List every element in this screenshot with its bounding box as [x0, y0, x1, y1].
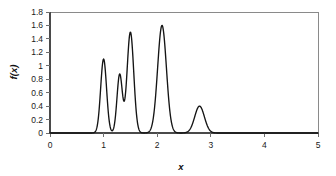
y-tick-label: 0.2: [31, 115, 43, 125]
chart-svg: 1.8 1.6 1.4 1.2 1 0.8 0.6 0.4 0.2 0 0 1: [0, 0, 336, 176]
x-axis-title: x: [177, 161, 184, 172]
y-tick-label: 1.4: [31, 34, 43, 44]
y-axis-ticks: 1.8 1.6 1.4 1.2 1 0.8 0.6 0.4 0.2 0: [31, 7, 50, 138]
y-tick-label: 1.2: [31, 47, 43, 57]
plot-frame-border: [50, 12, 318, 133]
x-tick-label: 4: [262, 140, 267, 150]
x-tick-label: 5: [316, 140, 321, 150]
x-tick-label: 0: [48, 140, 53, 150]
y-tick-label: 0.6: [31, 88, 43, 98]
x-tick-label: 3: [208, 140, 213, 150]
y-tick-label: 1.8: [31, 7, 43, 17]
x-tick-label: 2: [155, 140, 160, 150]
y-tick-label: 1.6: [31, 20, 43, 30]
chart-figure: 1.8 1.6 1.4 1.2 1 0.8 0.6 0.4 0.2 0 0 1: [0, 0, 336, 176]
y-tick-label: 0: [38, 128, 43, 138]
data-curve-fx: [50, 25, 318, 133]
y-tick-label: 0.4: [31, 101, 43, 111]
y-tick-label: 0.8: [31, 74, 43, 84]
y-axis-title: f(x): [8, 65, 19, 80]
x-tick-label: 1: [101, 140, 106, 150]
x-axis-ticks: 0 1 2 3 4 5: [48, 133, 321, 150]
y-tick-label: 1: [38, 61, 43, 71]
